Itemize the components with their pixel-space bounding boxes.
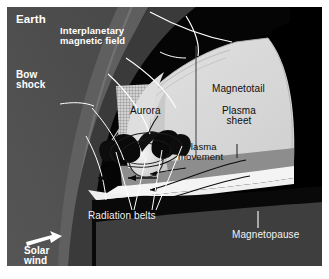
label-aurora: Aurora [130,106,161,116]
label-solar-wind: Solar wind [24,246,50,267]
magnetosphere-diagram: Earth Interplanetary magnetic field Bow … [0,0,329,279]
label-earth: Earth [16,14,46,26]
label-plasma-movement: Plasma movement [178,142,223,162]
label-magnetotail: Magnetotail [212,84,265,94]
label-radiation-belts: Radiation belts [88,211,156,221]
label-bow-shock: Bow shock [16,70,45,91]
label-plasma-sheet: Plasma sheet [222,106,256,127]
label-magnetopause: Magnetopause [232,230,299,240]
label-interplanetary-magnetic-field: Interplanetary magnetic field [60,26,125,46]
